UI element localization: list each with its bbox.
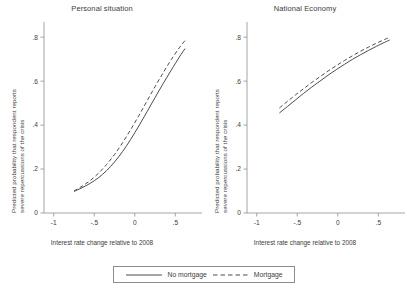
legend-label-no-mortgage: No mortgage bbox=[167, 271, 206, 278]
legend-line-dashed-icon bbox=[212, 272, 250, 278]
panel-national-economy: National Economy Predicted probability t… bbox=[203, 0, 407, 252]
svg-text:.6: .6 bbox=[236, 78, 242, 85]
svg-text:.2: .2 bbox=[236, 165, 242, 172]
plot-area-right: 0.2.4.6.8-1-.50.5 bbox=[203, 0, 407, 252]
svg-text:.4: .4 bbox=[33, 121, 39, 128]
legend: No mortgage Mortgage bbox=[113, 266, 295, 283]
svg-text:.5: .5 bbox=[376, 219, 382, 226]
legend-line-solid-icon bbox=[125, 272, 163, 278]
x-axis-label-right: Interest rate change relative to 2008 bbox=[203, 239, 407, 246]
svg-text:.2: .2 bbox=[33, 165, 39, 172]
svg-text:.6: .6 bbox=[33, 78, 39, 85]
legend-label-mortgage: Mortgage bbox=[254, 271, 283, 278]
svg-text:-1: -1 bbox=[51, 219, 57, 226]
svg-text:.5: .5 bbox=[173, 219, 179, 226]
panel-personal-situation: Personal situation Predicted probability… bbox=[0, 0, 204, 252]
svg-text:.8: .8 bbox=[33, 34, 39, 41]
figure-canvas: Personal situation Predicted probability… bbox=[0, 0, 407, 290]
svg-text:0: 0 bbox=[336, 219, 340, 226]
svg-text:0: 0 bbox=[133, 219, 137, 226]
legend-entry-mortgage: Mortgage bbox=[212, 271, 283, 278]
svg-text:-.5: -.5 bbox=[293, 219, 301, 226]
plot-area-left: 0.2.4.6.8-1-.50.5 bbox=[0, 0, 204, 252]
svg-text:0: 0 bbox=[34, 209, 38, 216]
legend-entry-no-mortgage: No mortgage bbox=[125, 271, 206, 278]
svg-text:0: 0 bbox=[237, 209, 241, 216]
x-axis-label-left: Interest rate change relative to 2008 bbox=[0, 239, 204, 246]
svg-text:.4: .4 bbox=[236, 121, 242, 128]
svg-text:-1: -1 bbox=[254, 219, 260, 226]
svg-text:-.5: -.5 bbox=[90, 219, 98, 226]
svg-text:.8: .8 bbox=[236, 34, 242, 41]
